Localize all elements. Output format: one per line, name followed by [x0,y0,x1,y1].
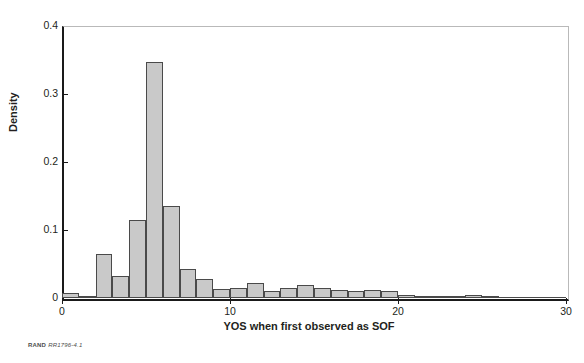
histogram-figure: 00.10.20.30.4 0102030 Density YOS when f… [0,0,584,363]
histogram-bar [213,289,230,298]
x-axis-tick-mark [398,298,399,304]
histogram-bar [62,293,79,298]
x-axis-tick-mark [566,298,567,304]
histogram-bar [432,296,449,298]
x-axis-title-text: YOS when first observed as SOF [223,320,394,332]
histogram-bar [96,254,113,298]
histogram-bar [264,291,281,298]
histogram-bar [247,283,264,298]
y-axis-tick-mark [62,94,68,95]
histogram-bar [415,296,432,298]
histogram-bar [196,279,213,298]
y-axis-tick-label: 0.1 [24,224,58,235]
histogram-bars [62,26,566,298]
figure-footnote: RANDRR1796-4.1 [28,342,83,348]
x-axis-tick-label: 20 [378,306,418,318]
histogram-bar [482,296,499,298]
histogram-bar [146,62,163,298]
histogram-bar [163,206,180,298]
histogram-bar [348,291,365,298]
histogram-bar [314,288,331,298]
histogram-bar [465,295,482,298]
x-axis-tick-label: 30 [546,306,584,318]
histogram-bar [280,288,297,298]
x-axis-tick-label: 10 [210,306,250,318]
histogram-bar [331,290,348,298]
x-axis-tick-mark [230,298,231,304]
histogram-bar [129,220,146,298]
histogram-bar [364,290,381,298]
histogram-bar [297,285,314,298]
x-axis-tick-label: 0 [42,306,82,318]
histogram-bar [79,296,96,298]
y-axis-tick-mark [62,230,68,231]
histogram-bar [448,296,465,298]
histogram-bar [398,295,415,298]
histogram-bar [549,297,566,298]
footnote-reference: RR1796-4.1 [48,342,82,348]
histogram-bar [112,276,129,298]
histogram-bar [381,291,398,298]
y-axis-tick-label: 0.4 [24,20,58,31]
histogram-bar [230,288,247,298]
y-axis-title: Density [7,92,19,132]
histogram-bar [516,297,533,298]
footnote-organization: RAND [28,342,46,348]
x-axis-title: YOS when first observed as SOF [0,320,584,332]
x-axis-tick-mark [62,298,63,304]
y-axis-tick-mark [62,162,68,163]
histogram-bar [180,269,197,298]
y-axis-tick-label: 0.3 [24,88,58,99]
histogram-bar [499,297,516,298]
y-axis-tick-label: 0 [24,292,58,303]
y-axis-tick-label: 0.2 [24,156,58,167]
histogram-bar [532,297,549,298]
